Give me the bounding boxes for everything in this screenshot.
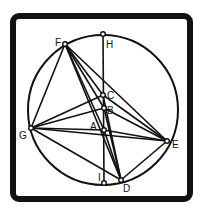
point-A	[102, 128, 107, 133]
point-B	[102, 106, 107, 111]
point-H	[101, 32, 106, 37]
label-D: D	[123, 183, 130, 194]
label-B: B	[107, 105, 114, 116]
label-I: I	[98, 172, 101, 183]
label-H: H	[106, 39, 113, 50]
label-C: C	[107, 90, 114, 101]
point-labels: HFCBAGEID	[19, 37, 179, 194]
segment-ED	[121, 141, 167, 180]
label-E: E	[172, 139, 179, 150]
geometry-diagram: HFCBAGEID	[0, 0, 201, 212]
point-F	[63, 42, 68, 47]
label-F: F	[55, 37, 61, 48]
segment-FE	[65, 44, 167, 141]
label-G: G	[19, 130, 27, 141]
point-D	[119, 178, 124, 183]
point-I	[102, 181, 107, 186]
label-A: A	[90, 121, 97, 132]
point-C	[101, 93, 106, 98]
point-E	[165, 139, 170, 144]
point-G	[29, 126, 34, 131]
segment-EC	[103, 95, 167, 141]
